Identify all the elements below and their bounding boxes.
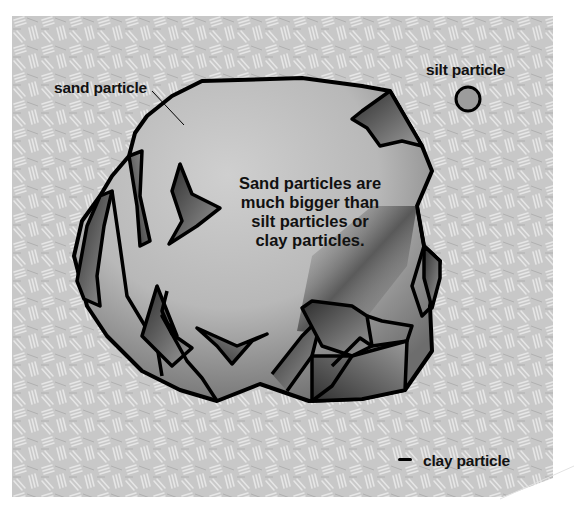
torn-corner (0, 0, 574, 524)
